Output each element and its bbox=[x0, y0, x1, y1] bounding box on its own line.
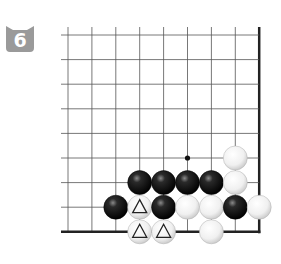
white-stone bbox=[199, 195, 223, 219]
white-stone bbox=[199, 220, 223, 244]
board-markers bbox=[185, 155, 190, 160]
black-stone bbox=[152, 195, 176, 219]
white-stone bbox=[223, 171, 247, 195]
black-stone bbox=[128, 171, 152, 195]
white-stone bbox=[223, 146, 247, 170]
white-stone bbox=[128, 220, 152, 244]
white-stone bbox=[247, 195, 271, 219]
black-stone bbox=[199, 171, 223, 195]
go-board-diagram bbox=[0, 0, 281, 264]
white-stone bbox=[176, 195, 200, 219]
white-stone bbox=[152, 220, 176, 244]
black-stone bbox=[176, 171, 200, 195]
black-stone bbox=[104, 195, 128, 219]
black-stone bbox=[152, 171, 176, 195]
white-stone bbox=[128, 195, 152, 219]
black-stone bbox=[223, 195, 247, 219]
point-marker-dot bbox=[185, 155, 190, 160]
